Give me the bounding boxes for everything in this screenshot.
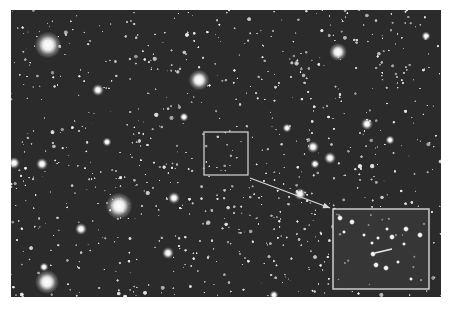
- inset-background: [333, 209, 429, 289]
- callout-arrow: [250, 178, 330, 208]
- source-region-box: [204, 132, 248, 175]
- arrow-head-icon: [322, 203, 330, 209]
